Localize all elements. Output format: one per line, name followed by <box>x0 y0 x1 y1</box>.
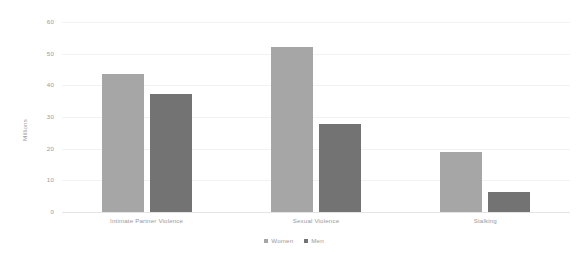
x-axis-category-label: Stalking <box>401 218 570 224</box>
legend-item-men[interactable]: Men <box>304 238 324 244</box>
legend-item-women[interactable]: Women <box>264 238 293 244</box>
y-axis-tick-label: 20 <box>8 146 54 152</box>
legend-swatch-icon <box>304 239 308 243</box>
y-axis-tick-label: 50 <box>8 51 54 57</box>
y-axis-tick-label: 10 <box>8 177 54 183</box>
x-axis-category-label: Sexual Violence <box>231 218 400 224</box>
chart-legend: WomenMen <box>0 238 588 244</box>
gridline <box>62 212 570 213</box>
y-axis-tick-label: 60 <box>8 19 54 25</box>
bar-women <box>271 47 313 212</box>
plot-area <box>62 22 570 212</box>
bar-group <box>271 22 361 212</box>
y-axis-tick-label: 30 <box>8 114 54 120</box>
bar-group <box>440 22 530 212</box>
bar-chart: Millions 6050403020100 Intimate Partner … <box>0 0 588 260</box>
legend-label: Men <box>311 238 324 244</box>
bar-women <box>440 152 482 212</box>
bar-men <box>150 94 192 212</box>
bar-women <box>102 74 144 212</box>
x-axis-category-label: Intimate Partner Violence <box>62 218 231 224</box>
y-axis-tick-label: 0 <box>8 209 54 215</box>
bar-men <box>488 192 530 212</box>
bar-men <box>319 124 361 212</box>
bar-group <box>102 22 192 212</box>
y-axis-title: Millions <box>21 119 28 141</box>
legend-label: Women <box>271 238 293 244</box>
legend-swatch-icon <box>264 239 268 243</box>
y-axis-tick-label: 40 <box>8 82 54 88</box>
